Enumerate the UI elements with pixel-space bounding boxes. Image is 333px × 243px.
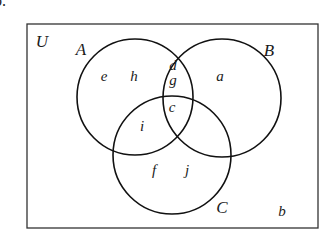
element-i: i <box>140 118 144 134</box>
set-a-label: A <box>75 40 87 59</box>
set-c-label: C <box>216 198 228 217</box>
element-j: j <box>183 162 189 178</box>
element-c: c <box>169 99 176 115</box>
universe-label: U <box>36 32 50 51</box>
element-d: d <box>169 57 177 73</box>
element-f: f <box>152 162 158 178</box>
element-h: h <box>130 68 138 84</box>
set-a-circle <box>77 39 193 155</box>
figure-label: b. <box>0 0 6 9</box>
element-b: b <box>278 203 286 219</box>
element-e: e <box>101 68 108 84</box>
element-g: g <box>169 72 177 88</box>
venn-diagram: b. U A B C e h d g a c i f j b <box>0 0 333 243</box>
set-b-label: B <box>264 41 275 60</box>
element-a: a <box>216 68 224 84</box>
